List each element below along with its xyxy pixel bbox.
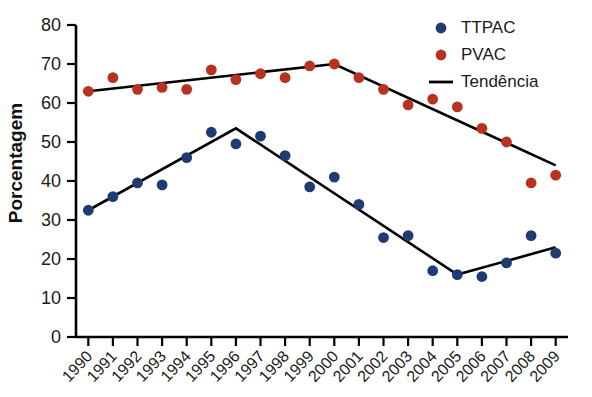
y-axis-label: Porcentagem [5, 103, 26, 223]
data-point-ttpac [132, 178, 143, 189]
data-point-pvac [206, 64, 217, 75]
data-point-pvac [550, 170, 561, 181]
data-point-pvac [378, 84, 389, 95]
data-point-pvac [255, 68, 266, 79]
y-tick-label: 80 [41, 15, 61, 35]
data-point-pvac [329, 59, 340, 70]
data-point-ttpac [181, 152, 192, 163]
data-point-ttpac [108, 191, 119, 202]
data-point-pvac [132, 84, 143, 95]
data-point-ttpac [550, 248, 561, 259]
y-tick-label: 70 [41, 54, 61, 74]
chart-container: Porcentagem 01020304050607080 1990199119… [0, 0, 592, 397]
percentage-trend-chart: Porcentagem 01020304050607080 1990199119… [0, 0, 592, 397]
y-tick-label: 30 [41, 210, 61, 230]
data-point-ttpac [157, 180, 168, 191]
data-point-ttpac [354, 199, 365, 210]
y-tick-label: 50 [41, 132, 61, 152]
y-tick-label: 60 [41, 93, 61, 113]
data-point-ttpac [526, 230, 537, 241]
data-point-ttpac [231, 139, 242, 150]
legend-marker-pvac [436, 50, 447, 61]
data-point-pvac [501, 137, 512, 148]
data-point-ttpac [427, 265, 438, 276]
data-point-pvac [157, 82, 168, 93]
data-point-ttpac [477, 271, 488, 282]
legend-label-pvac: PVAC [461, 45, 506, 64]
y-tick-label: 20 [41, 249, 61, 269]
y-axis-title: Porcentagem [5, 103, 26, 223]
y-axis-ticks: 01020304050607080 [41, 15, 76, 347]
data-point-pvac [452, 102, 463, 113]
data-point-pvac [108, 72, 119, 83]
data-point-ttpac [280, 150, 291, 161]
data-point-pvac [280, 72, 291, 83]
data-point-pvac [231, 74, 242, 85]
legend-marker-ttpac [436, 23, 447, 34]
data-point-ttpac [452, 269, 463, 280]
data-point-ttpac [206, 127, 217, 138]
data-point-ttpac [403, 230, 414, 241]
data-point-ttpac [501, 258, 512, 269]
data-point-ttpac [255, 131, 266, 142]
y-tick-label: 40 [41, 171, 61, 191]
data-point-pvac [181, 84, 192, 95]
y-tick-label: 0 [51, 327, 61, 347]
data-point-pvac [403, 100, 414, 111]
legend-label-tendência: Tendência [461, 72, 539, 91]
data-point-ttpac [378, 232, 389, 243]
data-point-pvac [304, 61, 315, 72]
legend-label-ttpac: TTPAC [461, 18, 515, 37]
data-point-ttpac [329, 172, 340, 183]
data-point-pvac [354, 72, 365, 83]
data-point-pvac [477, 123, 488, 134]
data-point-ttpac [83, 205, 94, 216]
data-point-pvac [83, 86, 94, 97]
y-tick-label: 10 [41, 288, 61, 308]
data-point-pvac [526, 178, 537, 189]
data-point-pvac [427, 94, 438, 105]
data-point-ttpac [304, 181, 315, 192]
